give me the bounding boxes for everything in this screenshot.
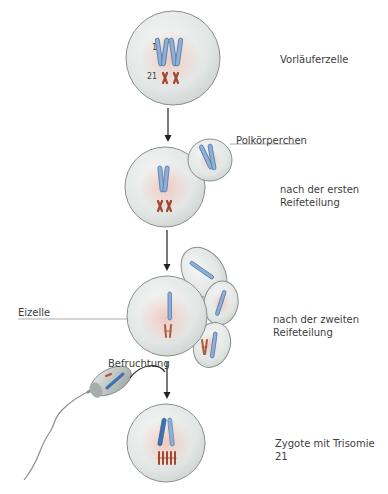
stage-label-first-division: nach der ersten Reifeteilung [280, 183, 359, 209]
chromosome-1-label: 1 [152, 43, 157, 52]
stage-label-second-division-line1: nach der zweiten [273, 313, 359, 326]
sperm [24, 360, 136, 480]
stage-label-second-division: nach der zweiten Reifeteilung [273, 313, 359, 339]
stage-label-precursor: Vorläuferzelle [280, 53, 348, 66]
callout-fertilization: Befruchtung [108, 357, 170, 370]
callout-egg-cell: Eizelle [18, 306, 50, 319]
stage-label-first-division-line1: nach der ersten [280, 183, 359, 196]
egg-cell [127, 276, 207, 356]
callout-polar-body: Polkörperchen [236, 134, 307, 147]
stage-label-zygote: Zygote mit Trisomie 21 [275, 437, 388, 463]
stage-label-second-division-line2: Reifeteilung [273, 326, 359, 339]
arrow-down-icon [164, 230, 171, 271]
precursor-cell [126, 11, 220, 105]
zygote-cell [127, 404, 205, 482]
polar-body-1 [188, 139, 232, 181]
stage-label-first-division-line2: Reifeteilung [280, 196, 359, 209]
arrow-down-icon [165, 108, 172, 142]
chromosome-21-label: 21 [147, 72, 157, 81]
meiosis-diagram [0, 0, 388, 494]
